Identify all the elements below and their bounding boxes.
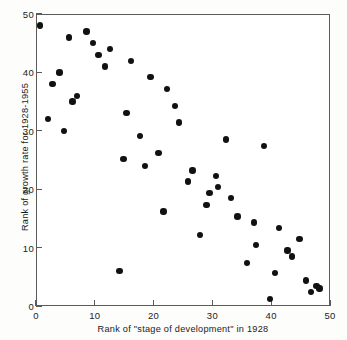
x-axis-title: Rank of "stage of development" in 1928	[36, 324, 330, 334]
x-tick-label: 10	[89, 310, 100, 321]
y-axis-title: Rank of growth rate for 1928-1955	[20, 42, 30, 272]
y-tick	[36, 72, 42, 73]
x-tick-label: 20	[148, 310, 159, 321]
y-tick	[36, 189, 42, 190]
x-tick-label: 40	[266, 310, 277, 321]
x-tick-label: 0	[33, 310, 39, 321]
x-tick	[153, 300, 154, 306]
x-tick	[94, 300, 95, 306]
y-tick	[36, 13, 42, 14]
x-tick-label: 50	[324, 310, 335, 321]
x-tick	[271, 300, 272, 306]
y-tick-label: 50	[8, 9, 34, 20]
x-tick	[329, 300, 330, 306]
scatter-plot-figure: 0102030405001020304050 Rank of "stage of…	[0, 0, 347, 340]
y-tick	[36, 130, 42, 131]
x-tick	[212, 300, 213, 306]
y-tick	[36, 305, 42, 306]
y-tick	[36, 247, 42, 248]
plot-frame	[36, 14, 330, 306]
y-tick-label: 0	[8, 301, 34, 312]
x-tick-label: 30	[207, 310, 218, 321]
